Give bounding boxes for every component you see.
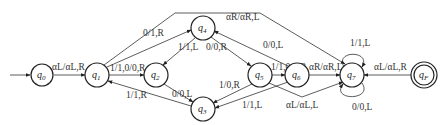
state-q4: q4: [191, 16, 215, 40]
label-q6-q3: 1/1,L: [242, 100, 263, 110]
label-q2-q3: 0/0,L: [172, 89, 193, 99]
label-q0-q1: αL/αL,R: [52, 62, 86, 72]
state-q3: q3: [191, 97, 215, 121]
label-q4-q5: 0/0,R: [206, 42, 228, 52]
label-q5-q7: αL/αL,L: [286, 100, 319, 110]
label-top-path: αR/αR,L: [226, 12, 260, 22]
label-q7-loop-top: 1/1,L: [350, 38, 371, 48]
state-diagram: αL/αL,R 1/1,0/0,R 0/1,R αR/αR,L 1/1,L 0/…: [0, 0, 446, 125]
label-q4-q2: 1/1,L: [178, 42, 199, 52]
edge-q5-q7: [269, 82, 343, 97]
label-q1-q4: 0/1,R: [143, 28, 165, 38]
edge-q1-q7: [104, 13, 345, 65]
edge-labels: αL/αL,R 1/1,0/0,R 0/1,R αR/αR,L 1/1,L 0/…: [52, 12, 408, 112]
state-q2: q2: [144, 63, 168, 87]
state-qF-accept: qF: [411, 62, 437, 88]
state-q6: q6: [285, 63, 309, 87]
label-q6-q4: 0/0,L: [263, 40, 284, 50]
state-q7: q7: [340, 63, 364, 87]
label-q7-loop-bottom: 0/0,L: [352, 102, 373, 112]
label-qF-q7: αL/αL,R: [374, 62, 408, 72]
label-q3-q1: 1/1,R: [126, 90, 148, 100]
state-q5: q5: [248, 63, 272, 87]
state-q0: q0: [31, 64, 53, 86]
label-q6-q7: αR/αR,L: [309, 62, 343, 72]
label-q1-q2: 1/1,0/0,R: [110, 63, 146, 73]
label-q5-q3: 1/0,R: [219, 80, 241, 90]
state-q1: q1: [85, 63, 109, 87]
